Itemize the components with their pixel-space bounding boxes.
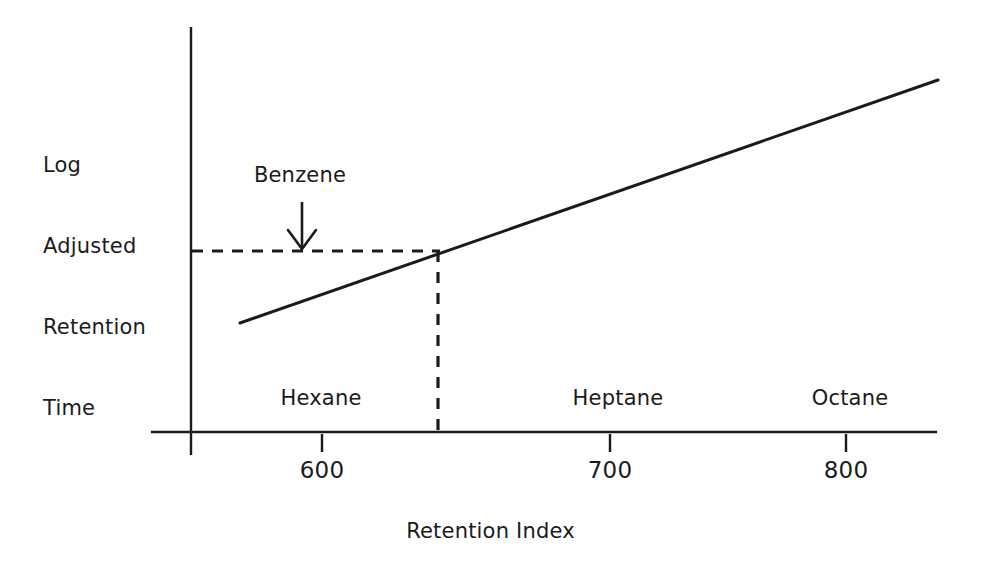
- x-tick-label-600: 600: [262, 457, 382, 483]
- x-tick-label-800: 800: [786, 457, 906, 483]
- chart-figure: Log Adjusted Retention Time Benzene Hexa…: [0, 0, 981, 563]
- band-label-hexane: Hexane: [231, 386, 411, 410]
- y-axis-title-line-3: Retention: [43, 314, 146, 341]
- y-axis-title-line-2: Adjusted: [43, 233, 146, 260]
- y-axis-title-line-4: Time: [43, 395, 146, 422]
- band-label-heptane: Heptane: [528, 386, 708, 410]
- y-axis-title: Log Adjusted Retention Time: [43, 98, 146, 476]
- y-axis-title-line-1: Log: [43, 152, 146, 179]
- x-tick-label-700: 700: [550, 457, 670, 483]
- x-axis-title: Retention Index: [0, 519, 981, 543]
- calibration-line: [240, 80, 938, 323]
- band-label-octane: Octane: [760, 386, 940, 410]
- benzene-annotation-label: Benzene: [200, 163, 400, 187]
